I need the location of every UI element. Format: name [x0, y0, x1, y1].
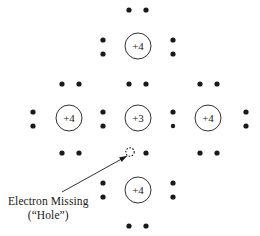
valence-electron-dot: [100, 123, 105, 128]
valence-electron-dot: [170, 180, 175, 185]
valence-electron-dot: [170, 51, 175, 56]
valence-electron-dot: [197, 150, 202, 155]
valence-electron-dot: [100, 109, 105, 114]
valence-electron-dot: [143, 7, 148, 12]
valence-electron-dot: [100, 194, 105, 199]
annotation-line-2: (“Hole”): [8, 208, 89, 222]
annotation-arrow-group: [62, 156, 127, 192]
valence-electron-dot: [76, 150, 81, 155]
annotation-arrow-head: [119, 156, 127, 162]
atom-charge-label: +4: [202, 112, 214, 124]
valence-electron-dot: [100, 51, 105, 56]
atom-cores-group: +4+4+3+4+4: [56, 33, 221, 203]
valence-electron-dot: [59, 81, 64, 86]
valence-electron-dot: [243, 109, 248, 114]
atom-charge-label: +4: [132, 40, 144, 52]
atom-charge-label: +4: [63, 112, 75, 124]
valence-electron-dot: [171, 124, 175, 128]
valence-electron-dot: [170, 37, 175, 42]
atom-right: +4: [195, 105, 221, 131]
valence-electron-dot: [76, 81, 81, 86]
annotation-line-1: Electron Missing: [8, 194, 89, 208]
atom-charge-label: +3: [132, 112, 144, 124]
valence-electron-dot: [30, 109, 35, 114]
valence-electron-dot: [170, 109, 175, 114]
annotation-arrow-line: [62, 156, 127, 192]
atom-top: +4: [125, 33, 151, 59]
valence-electron-dot: [59, 150, 64, 155]
atom-bottom: +4: [125, 177, 151, 203]
valence-electron-dot: [243, 123, 248, 128]
atom-left: +4: [56, 105, 82, 131]
valence-electron-dot: [126, 81, 131, 86]
electron-hole-marker: [126, 148, 134, 156]
atom-charge-label: +4: [132, 184, 144, 196]
valence-electron-dot: [100, 37, 105, 42]
valence-electron-dot: [214, 150, 219, 155]
valence-electron-dot: [170, 194, 175, 199]
valence-electron-dot: [126, 7, 131, 12]
silicon-lattice-figure: +4+4+3+4+4 Electron Missing (“Hole”): [0, 0, 260, 236]
valence-electron-dot: [143, 81, 148, 86]
valence-electron-dot: [143, 150, 148, 155]
valence-electron-dot: [214, 81, 219, 86]
atom-center-dopant: +3: [125, 105, 151, 131]
valence-electron-dot: [126, 223, 131, 228]
valence-electron-dot: [197, 81, 202, 86]
valence-electron-dot: [143, 223, 148, 228]
valence-electron-dot: [100, 180, 105, 185]
electron-missing-annotation: Electron Missing (“Hole”): [8, 194, 89, 222]
valence-electron-dot: [30, 123, 35, 128]
electron-hole-group: [126, 148, 134, 156]
